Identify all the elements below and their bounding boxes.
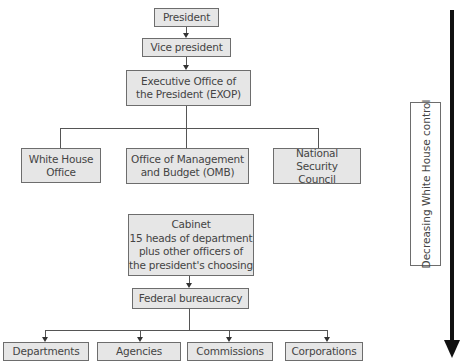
node-label: the president's choosing: [129, 259, 253, 273]
node-label: the President (EXOP): [136, 88, 241, 101]
decreasing-control-label: Decreasing White House control: [410, 102, 441, 266]
node-label: plus other officers of: [139, 245, 243, 259]
connector-cabinet-fb: [189, 275, 190, 283]
node-label: Office: [46, 166, 76, 179]
node-departments: Departments: [3, 342, 89, 361]
node-label: Corporations: [291, 345, 356, 358]
node-label: Agencies: [116, 345, 162, 358]
node-federal-bureaucracy: Federal bureaucracy: [132, 288, 249, 309]
node-label: White House: [29, 153, 94, 166]
node-commissions: Commissions: [187, 342, 273, 361]
connector-to-corporations: [327, 330, 328, 337]
node-label: Vice president: [150, 41, 222, 54]
connector-exop-horizontal: [60, 128, 319, 129]
connector-to-nsc: [318, 128, 319, 148]
node-vice-president: Vice president: [142, 38, 231, 57]
connector-fb-down: [189, 308, 190, 330]
connector-fb-horizontal: [45, 330, 328, 331]
node-label: 15 heads of department: [130, 232, 253, 246]
node-cabinet: Cabinet 15 heads of department plus othe…: [128, 214, 254, 276]
side-label-text: Decreasing White House control: [420, 100, 432, 269]
connector-to-commissions: [229, 330, 230, 337]
connector-vp-exop: [186, 56, 187, 65]
node-label: Executive Office of: [141, 75, 236, 88]
arrowhead-icon: [444, 340, 460, 358]
node-president: President: [154, 8, 219, 27]
node-label: Federal bureaucracy: [139, 292, 243, 305]
node-corporations: Corporations: [285, 342, 363, 361]
node-white-house-office: White House Office: [21, 148, 101, 183]
node-agencies: Agencies: [97, 342, 181, 361]
connector-to-whitehouse: [60, 128, 61, 148]
node-nsc: National Security Council: [273, 148, 361, 184]
node-label: Council: [298, 173, 335, 186]
node-label: Commissions: [196, 345, 263, 358]
node-omb: Office of Management and Budget (OMB): [126, 148, 249, 184]
node-label: National Security: [274, 147, 360, 173]
connector-to-departments: [45, 330, 46, 337]
node-title: Cabinet: [171, 218, 210, 232]
node-label: Office of Management: [131, 153, 244, 166]
down-arrow-icon: [450, 10, 454, 350]
node-label: Departments: [13, 345, 80, 358]
node-label: President: [163, 11, 210, 24]
connector-to-agencies: [140, 330, 141, 337]
node-exop: Executive Office of the President (EXOP): [126, 70, 251, 106]
connector-exop-down: [186, 105, 187, 148]
node-label: and Budget (OMB): [141, 166, 235, 179]
